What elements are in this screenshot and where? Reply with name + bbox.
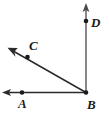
point-B-dot bbox=[84, 90, 89, 95]
point-A-dot bbox=[20, 90, 25, 95]
point-label-C: C bbox=[29, 39, 38, 52]
point-C-dot bbox=[25, 55, 30, 60]
point-label-A: A bbox=[18, 97, 27, 110]
geometry-figure: A B C D bbox=[0, 0, 109, 117]
ray-BC-line bbox=[14, 52, 86, 93]
point-D-dot bbox=[84, 19, 89, 24]
point-label-D: D bbox=[91, 16, 100, 29]
point-label-B: B bbox=[87, 98, 96, 111]
